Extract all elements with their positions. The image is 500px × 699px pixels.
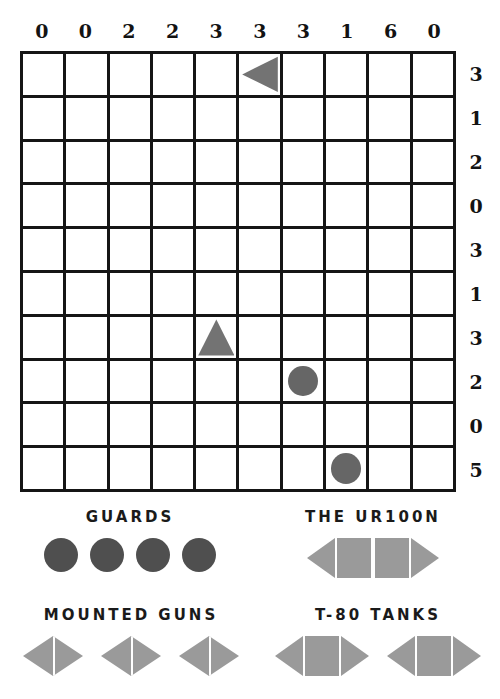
grid-cell[interactable]: [110, 273, 153, 317]
grid-cell[interactable]: [153, 229, 196, 273]
fleet-ship-t80-tank[interactable]: [275, 636, 369, 676]
fleet-ship-mounted-gun[interactable]: [179, 636, 239, 676]
grid-cell[interactable]: [153, 142, 196, 186]
grid-cell[interactable]: [196, 142, 239, 186]
grid-cell[interactable]: [110, 361, 153, 405]
grid-cell[interactable]: [413, 98, 456, 142]
grid-cell[interactable]: [413, 142, 456, 186]
grid-cell[interactable]: [66, 361, 109, 405]
fleet-circle-icon[interactable]: [182, 538, 216, 572]
grid-cell[interactable]: [196, 404, 239, 448]
grid-cell[interactable]: [369, 317, 412, 361]
grid-cell[interactable]: [110, 229, 153, 273]
grid-cell[interactable]: [369, 273, 412, 317]
grid-cell[interactable]: [283, 54, 326, 98]
puzzle-grid[interactable]: [20, 51, 456, 492]
grid-cell[interactable]: [66, 185, 109, 229]
grid-cell[interactable]: [196, 361, 239, 405]
grid-cell[interactable]: [110, 448, 153, 492]
grid-cell[interactable]: [196, 317, 239, 361]
grid-cell[interactable]: [66, 98, 109, 142]
grid-cell[interactable]: [283, 229, 326, 273]
grid-cell[interactable]: [153, 54, 196, 98]
grid-cell[interactable]: [153, 361, 196, 405]
grid-cell[interactable]: [239, 142, 282, 186]
grid-cell[interactable]: [110, 98, 153, 142]
grid-cell[interactable]: [153, 185, 196, 229]
legend-mounted-guns-pieces[interactable]: [6, 636, 256, 676]
grid-cell[interactable]: [66, 54, 109, 98]
fleet-circle-icon[interactable]: [136, 538, 170, 572]
legend-ur100n-pieces[interactable]: [258, 538, 488, 578]
grid-cell[interactable]: [369, 404, 412, 448]
grid-cell[interactable]: [369, 229, 412, 273]
grid-cell[interactable]: [196, 273, 239, 317]
grid-cell[interactable]: [23, 361, 66, 405]
grid-cell[interactable]: [66, 142, 109, 186]
fleet-circle-icon[interactable]: [44, 538, 78, 572]
fleet-ship-ur100n[interactable]: [307, 538, 439, 578]
grid-cell[interactable]: [23, 317, 66, 361]
grid-cell[interactable]: [326, 404, 369, 448]
grid-cell[interactable]: [153, 98, 196, 142]
grid-cell[interactable]: [283, 361, 326, 405]
grid-cell[interactable]: [66, 229, 109, 273]
grid-cell[interactable]: [413, 361, 456, 405]
grid-cell[interactable]: [283, 448, 326, 492]
grid-cell[interactable]: [110, 142, 153, 186]
grid-cell[interactable]: [413, 185, 456, 229]
grid-cell[interactable]: [23, 448, 66, 492]
grid-cell[interactable]: [153, 273, 196, 317]
grid-cell[interactable]: [110, 317, 153, 361]
grid-cell[interactable]: [239, 273, 282, 317]
grid-cell[interactable]: [326, 142, 369, 186]
grid-cell[interactable]: [239, 185, 282, 229]
grid-cell[interactable]: [413, 229, 456, 273]
grid-cell[interactable]: [239, 404, 282, 448]
fleet-ship-t80-tank[interactable]: [387, 636, 481, 676]
grid-cell[interactable]: [283, 404, 326, 448]
grid-cell[interactable]: [239, 229, 282, 273]
grid-cell[interactable]: [283, 185, 326, 229]
grid-cell[interactable]: [66, 273, 109, 317]
grid-cell[interactable]: [196, 54, 239, 98]
grid-cell[interactable]: [413, 317, 456, 361]
grid-cell[interactable]: [326, 229, 369, 273]
grid-cell[interactable]: [369, 54, 412, 98]
grid-cell[interactable]: [369, 448, 412, 492]
grid-cell[interactable]: [239, 448, 282, 492]
grid-cell[interactable]: [326, 317, 369, 361]
grid-cell[interactable]: [239, 54, 282, 98]
grid-cell[interactable]: [23, 185, 66, 229]
grid-cell[interactable]: [23, 229, 66, 273]
grid-cell[interactable]: [283, 317, 326, 361]
legend-guards-pieces[interactable]: [20, 538, 240, 572]
grid-cell[interactable]: [153, 317, 196, 361]
grid-cell[interactable]: [326, 448, 369, 492]
grid-cell[interactable]: [413, 448, 456, 492]
grid-cell[interactable]: [153, 448, 196, 492]
grid-cell[interactable]: [23, 404, 66, 448]
grid-cell[interactable]: [369, 98, 412, 142]
grid-cell[interactable]: [23, 142, 66, 186]
grid-cell[interactable]: [326, 185, 369, 229]
grid-cell[interactable]: [23, 98, 66, 142]
grid-cell[interactable]: [239, 361, 282, 405]
grid-cell[interactable]: [369, 361, 412, 405]
grid-cell[interactable]: [66, 448, 109, 492]
grid-cell[interactable]: [326, 54, 369, 98]
grid-cell[interactable]: [110, 185, 153, 229]
grid-cell[interactable]: [369, 185, 412, 229]
grid-cell[interactable]: [283, 142, 326, 186]
grid-cell[interactable]: [413, 404, 456, 448]
grid-cell[interactable]: [413, 54, 456, 98]
grid-cell[interactable]: [196, 185, 239, 229]
grid-cell[interactable]: [413, 273, 456, 317]
grid-cell[interactable]: [326, 361, 369, 405]
grid-cell[interactable]: [196, 229, 239, 273]
grid-cell[interactable]: [23, 54, 66, 98]
legend-t80-tanks-pieces[interactable]: [262, 636, 494, 676]
grid-cell[interactable]: [196, 98, 239, 142]
grid-cell[interactable]: [66, 404, 109, 448]
fleet-ship-mounted-gun[interactable]: [101, 636, 161, 676]
